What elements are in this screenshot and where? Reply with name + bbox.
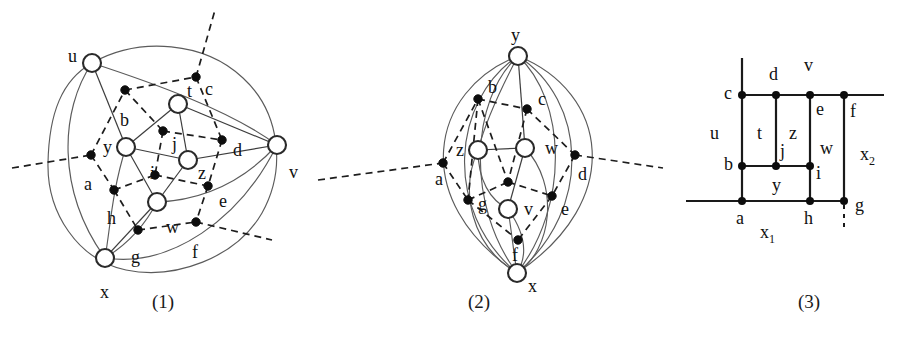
panel3-region-label-x2: x2 xyxy=(860,145,875,167)
panel3-node-label-j: j xyxy=(780,142,785,160)
caption-panel-2: (2) xyxy=(468,291,490,313)
panel3-node-label-v: v xyxy=(804,56,813,74)
panel3-node-label-e: e xyxy=(816,100,824,118)
caption-panel-3: (3) xyxy=(798,291,820,313)
panel3-region-label-w: w xyxy=(820,139,833,157)
figure-canvas: u t y z v w x a b c d e f g h i j xyxy=(0,0,908,339)
panel3-region-label-t: t xyxy=(757,124,762,142)
panel3-node-label-g: g xyxy=(855,196,864,214)
x1-subscript: 1 xyxy=(769,232,775,246)
panel3-node-label-a: a xyxy=(736,209,744,227)
panel3-graphic xyxy=(0,0,908,339)
x2-subscript: 2 xyxy=(869,154,875,168)
panel3-region-label-y: y xyxy=(772,176,781,194)
panel3-node-label-h: h xyxy=(804,209,813,227)
panel3-node-label-b: b xyxy=(724,155,733,173)
panel3-region-label-u: u xyxy=(710,124,719,142)
panel3-region-label-z: z xyxy=(789,124,797,142)
caption-panel-1: (1) xyxy=(152,291,174,313)
panel3-node-label-i: i xyxy=(816,164,821,182)
x1-base: x xyxy=(760,222,769,242)
panel3-node-label-f: f xyxy=(850,102,856,120)
panel3-node-label-d: d xyxy=(769,65,778,83)
x2-base: x xyxy=(860,144,869,164)
panel3-region-label-x1: x1 xyxy=(760,223,775,245)
panel3-node-label-c: c xyxy=(724,84,732,102)
